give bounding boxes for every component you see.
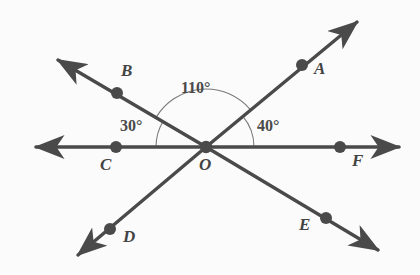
point-dot-d	[104, 223, 116, 235]
point-label-o: O	[199, 156, 211, 173]
point-dot-b	[111, 87, 123, 99]
line-A-O-D-lower	[78, 147, 206, 255]
geometry-canvas	[0, 0, 420, 275]
line-A-O-D-upper	[206, 22, 357, 147]
arc-angle-AOF	[243, 116, 255, 147]
angle-diagram-figure: ABCDEFO 30°110°40°	[0, 0, 420, 275]
angle-COB-label: 30°	[120, 118, 142, 134]
arc-angle-COB	[156, 121, 163, 147]
point-dot-c	[110, 141, 122, 153]
point-dot-o	[200, 141, 212, 153]
point-dot-f	[334, 141, 346, 153]
diagram-lines	[36, 22, 399, 255]
angle-BOA-label: 110°	[181, 80, 211, 96]
point-dot-a	[296, 59, 308, 71]
point-dot-e	[320, 212, 332, 224]
point-label-c: C	[100, 156, 111, 173]
point-label-d: D	[123, 228, 135, 245]
point-label-b: B	[121, 62, 132, 79]
angle-AOF-label: 40°	[257, 118, 279, 134]
point-label-e: E	[299, 216, 310, 233]
point-label-a: A	[314, 60, 325, 77]
point-label-f: F	[352, 152, 363, 169]
